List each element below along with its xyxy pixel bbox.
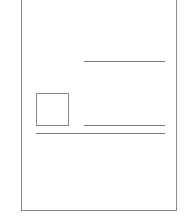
caption-line	[84, 125, 165, 126]
full-width-line	[36, 133, 165, 134]
header-line	[84, 61, 165, 62]
image-placeholder	[36, 93, 69, 126]
